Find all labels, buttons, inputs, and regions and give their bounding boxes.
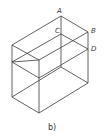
figure-caption: b) <box>48 123 56 132</box>
edge-bottom-back-left <box>12 67 61 97</box>
edge-bottom-left <box>12 97 39 113</box>
label-a: A <box>56 7 62 15</box>
edge-top-right <box>61 16 88 32</box>
edge-top-front-left <box>12 45 39 60</box>
label-b: B <box>91 27 96 35</box>
section-line-c-d <box>61 34 88 49</box>
label-d: D <box>91 45 97 53</box>
box-diagram: A B C D b) <box>0 0 104 136</box>
label-c: C <box>55 27 60 35</box>
edge-bottom-right <box>39 83 88 113</box>
edge-top-left <box>12 16 61 45</box>
section-line-front-left <box>12 62 39 78</box>
edge-top-front-right <box>39 32 88 60</box>
section-line-back-left <box>12 34 61 62</box>
section-plane <box>12 34 88 78</box>
section-line-front-right <box>39 49 88 78</box>
section-line-top-diag <box>12 60 39 62</box>
edge-bottom-back-right <box>61 67 88 83</box>
box-edges <box>12 16 88 113</box>
